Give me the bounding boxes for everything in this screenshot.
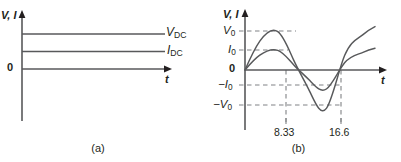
y-tick-label-neg-v0: −V0 bbox=[213, 99, 232, 111]
panel-a-y-axis-title: V, I bbox=[1, 10, 17, 21]
panel-b-x-axis-title: t bbox=[381, 75, 385, 86]
panel-b: V, I V0 I0 0 −I0 −V0 8.33 16.6 t (b) bbox=[196, 0, 401, 162]
series-curve-voltage bbox=[245, 27, 375, 111]
y-tick-label-neg-i0-sign: − bbox=[218, 78, 225, 90]
panel-a-origin-label: 0 bbox=[7, 62, 13, 73]
y-axis-a bbox=[19, 10, 26, 121]
series-label-vdc-sub: DC bbox=[174, 30, 186, 40]
x-tick-label-166: 16.6 bbox=[329, 127, 349, 138]
panel-a: V, I 0 t VDC IDC (a) bbox=[0, 0, 196, 162]
y-tick-label-i0-sub: 0 bbox=[231, 48, 236, 57]
y-tick-label-v0: V0 bbox=[223, 25, 235, 37]
panel-b-y-axis-title: V, I bbox=[223, 9, 239, 20]
y-tick-label-neg-v0-sub: 0 bbox=[227, 103, 232, 112]
guide-lines-vertical bbox=[286, 70, 341, 122]
x-axis-b bbox=[245, 67, 387, 74]
y-tick-label-i0: I0 bbox=[228, 44, 236, 56]
y-tick-label-neg-i0: −I0 bbox=[218, 79, 233, 91]
y-tick-label-neg-v0-sign: − bbox=[213, 98, 220, 110]
panel-b-caption: (b) bbox=[196, 143, 401, 154]
guide-lines-horizontal bbox=[239, 31, 342, 105]
x-tick-label-833: 8.33 bbox=[274, 127, 294, 138]
series-label-idc: IDC bbox=[167, 44, 183, 56]
y-tick-label-v0-sub: 0 bbox=[231, 29, 236, 38]
x-tick-marks bbox=[286, 118, 341, 124]
panel-a-caption: (a) bbox=[0, 143, 196, 154]
x-axis-a bbox=[22, 66, 172, 73]
y-tick-label-v0-main: V bbox=[223, 24, 231, 36]
series-label-vdc-main: V bbox=[166, 25, 174, 39]
y-tick-label-neg-i0-sub: 0 bbox=[228, 83, 233, 92]
figure-container: V, I 0 t VDC IDC (a) bbox=[0, 0, 401, 162]
y-tick-label-zero: 0 bbox=[229, 63, 235, 74]
series-label-vdc: VDC bbox=[166, 26, 186, 38]
panel-a-x-axis-title: t bbox=[165, 74, 169, 85]
series-label-idc-sub: DC bbox=[170, 48, 182, 58]
